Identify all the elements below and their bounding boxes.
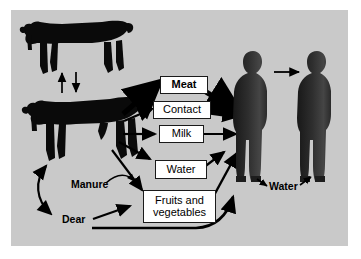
arrow-manure-to-fruits (106, 175, 134, 183)
node-box-fruits-vegetables[interactable]: Fruits and vegetables (143, 190, 216, 223)
arrow-deer-cow-bidirectional (38, 166, 50, 213)
node-box-meat[interactable]: Meat (160, 76, 208, 94)
node-label-meat: Meat (171, 79, 196, 91)
node-box-milk[interactable]: Milk (159, 125, 204, 143)
node-label-manure: Manure (71, 179, 108, 190)
node-label-milk: Milk (172, 128, 192, 140)
node-box-water[interactable]: Water (155, 160, 207, 179)
node-label-contact: Contact (163, 104, 201, 116)
diagram-root: Meat Contact Milk Water Fruits and veget… (0, 0, 361, 259)
node-label-fruits-line1: Fruits and (155, 195, 204, 207)
node-box-contact[interactable]: Contact (153, 101, 211, 119)
arrow-deer-to-fruits (93, 206, 130, 219)
cow-silhouette-bottom (22, 97, 146, 161)
human-silhouette-right (297, 51, 331, 182)
cow-silhouette-top (20, 21, 133, 74)
arrow-contact-to-human (207, 113, 236, 117)
human-silhouette-left (233, 51, 267, 182)
node-label-water-free: Water (269, 181, 298, 192)
arrow-cow-to-fruits (112, 150, 142, 190)
node-label-deer: Dear (62, 214, 85, 225)
node-label-water: Water (167, 164, 196, 176)
node-label-fruits-line2: vegetables (153, 207, 206, 219)
arrow-human-to-water-label (257, 179, 267, 186)
